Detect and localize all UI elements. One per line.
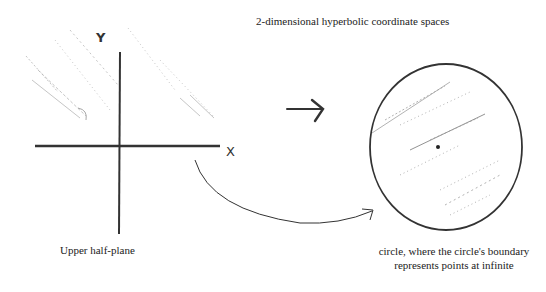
y-axis-label: Y (95, 30, 106, 45)
upper-half-plane-caption: Upper half-plane (60, 244, 135, 256)
poincare-disk (370, 64, 522, 230)
circle-caption-line2: represents points at infinite (379, 258, 530, 272)
disk-center-point (436, 145, 440, 149)
disk-shading (372, 82, 500, 215)
circle-caption-line1: circle, where the circle's boundary (379, 244, 530, 258)
circle-caption: circle, where the circle's boundary repr… (379, 244, 530, 272)
curved-arrow (195, 160, 373, 223)
y-axis (119, 52, 120, 234)
x-axis-label: X (226, 144, 235, 159)
right-arrow-icon (287, 100, 323, 121)
